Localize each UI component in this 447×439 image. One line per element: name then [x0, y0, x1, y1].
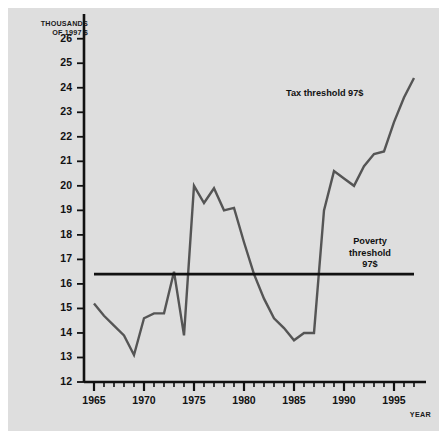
- y-tick-label: 18: [46, 228, 72, 240]
- x-tick-label: 1975: [172, 394, 216, 406]
- axis-lines: [84, 14, 426, 382]
- y-tick-label: 24: [46, 81, 72, 93]
- y-tick-label: 15: [46, 301, 72, 313]
- y-tick-label: 19: [46, 203, 72, 215]
- x-tick-label: 1995: [372, 394, 416, 406]
- data-series-group: [94, 78, 414, 355]
- x-tick-label: 1965: [72, 394, 116, 406]
- y-tick-label: 26: [46, 32, 72, 44]
- y-tick-label: 16: [46, 277, 72, 289]
- y-tick-label: 14: [46, 326, 72, 338]
- y-tick-label: 13: [46, 350, 72, 362]
- y-tick-label: 23: [46, 105, 72, 117]
- x-tick-label: 1985: [272, 394, 316, 406]
- x-tick-label: 1980: [222, 394, 266, 406]
- y-tick-label: 12: [46, 375, 72, 387]
- tax-threshold-line: [94, 78, 414, 355]
- y-tick-label: 25: [46, 56, 72, 68]
- y-tick-label: 21: [46, 154, 72, 166]
- y-tick-label: 22: [46, 130, 72, 142]
- chart-figure: THOUSANDS OF 1997 $ YEAR Tax threshold 9…: [0, 0, 447, 439]
- x-tick-marks: [94, 382, 414, 391]
- y-tick-label: 17: [46, 252, 72, 264]
- x-tick-label: 1990: [322, 394, 366, 406]
- x-tick-label: 1970: [122, 394, 166, 406]
- y-tick-label: 20: [46, 179, 72, 191]
